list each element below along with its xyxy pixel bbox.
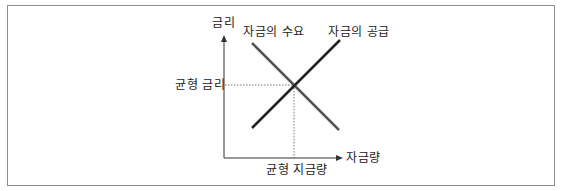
- x-axis-arrow-icon: [336, 155, 343, 161]
- demand-label: 자금의 수요: [243, 25, 305, 39]
- x-axis-label: 자금량: [346, 151, 381, 165]
- y-axis-label: 금리: [212, 16, 235, 30]
- demand-curve: [252, 43, 339, 130]
- equilibrium-quantity-label: 균형 지금량: [266, 163, 328, 177]
- supply-curve: [252, 40, 340, 128]
- equilibrium-rate-label: 균형 금리: [175, 78, 225, 92]
- y-axis-arrow-icon: [221, 35, 227, 42]
- supply-label: 자금의 공급: [328, 25, 390, 39]
